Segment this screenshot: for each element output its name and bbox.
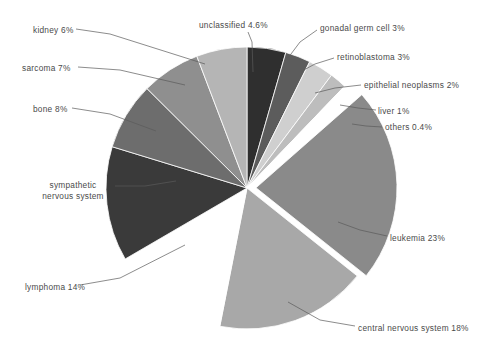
pie-label-liver: liver 1% — [378, 106, 410, 117]
pie-slices-group — [106, 47, 397, 329]
pie-label-epithelial-neoplasms: epithelial neoplasms 2% — [364, 80, 459, 91]
leader-line-kidney — [76, 29, 205, 64]
pie-label-leukemia: leukemia 23% — [390, 233, 445, 244]
pie-label-sympathetic-line2: nervous system — [42, 191, 104, 201]
pie-label-unclassified: unclassified 4.6% — [199, 20, 268, 31]
pie-chart-figure: kidney 6% sarcoma 7% bone 8% sympathetic… — [0, 0, 489, 349]
pie-label-gonadal-germ-cell: gonadal germ cell 3% — [320, 23, 405, 34]
pie-label-sympathetic-line1: sympathetic — [49, 180, 96, 190]
pie-chart-svg — [0, 0, 489, 349]
pie-label-central-nervous-system: central nervous system 18% — [358, 323, 469, 334]
pie-label-sarcoma: sarcoma 7% — [22, 63, 71, 74]
pie-label-bone: bone 8% — [33, 104, 68, 115]
pie-label-others: others 0.4% — [385, 122, 432, 133]
pie-label-lymphoma: lymphoma 14% — [25, 282, 85, 293]
pie-label-sympathetic-nervous-system: sympathetic nervous system — [32, 180, 114, 201]
pie-label-kidney: kidney 6% — [33, 25, 74, 36]
leader-line-gonadal — [288, 30, 317, 58]
pie-label-retinoblastoma: retinoblastoma 3% — [337, 52, 410, 63]
